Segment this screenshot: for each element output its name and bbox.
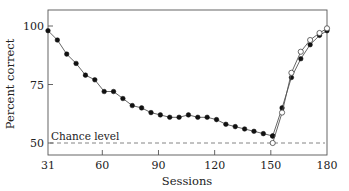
x-tick-label: 150 [260,159,281,172]
filled-data-point [252,129,257,134]
filled-data-point [55,38,60,43]
series-filled [46,28,275,138]
filled-data-point [83,73,88,78]
filled-data-point [74,61,79,66]
open-data-point [270,140,275,145]
filled-data-point [46,28,51,33]
x-tick-label: 60 [95,159,109,172]
chance-level-label: Chance level [51,130,120,142]
filled-data-point [167,115,172,120]
x-tick-label: 180 [317,159,338,172]
open-data-point [289,70,294,75]
series-open-recovery [270,26,330,146]
y-tick-label: 75 [30,79,44,92]
filled-data-point [158,113,163,118]
series-line-open-recovery [273,28,327,143]
series-group [46,26,330,146]
filled-data-point [298,56,303,61]
filled-data-point [233,124,238,129]
open-data-point [324,26,329,31]
filled-data-point [130,103,135,108]
open-data-point [298,49,303,54]
filled-data-point [205,115,210,120]
filled-data-point [195,115,200,120]
open-data-point [308,37,313,42]
open-data-point [279,110,284,115]
y-axis-title: Percent correct [3,38,17,129]
filled-data-point [102,89,107,94]
filled-data-point [139,106,144,111]
filled-data-point [214,117,219,122]
filled-data-point [224,122,229,127]
axes: Chance level 316090120150180 5075100 Ses… [3,10,338,188]
filled-data-point [261,131,266,136]
filled-data-point [93,78,98,83]
open-data-point [317,30,322,35]
filled-data-point [308,42,313,47]
filled-data-point [177,115,182,120]
y-tick-label: 100 [23,20,44,33]
filled-data-point [64,52,69,57]
x-ticks: 316090120150180 [41,150,338,172]
y-ticks: 5075100 [23,20,53,150]
y-tick-label: 50 [30,137,44,150]
x-tick-label: 31 [41,159,55,172]
chart: Chance level 316090120150180 5075100 Ses… [0,0,349,191]
filled-data-point [111,89,116,94]
x-tick-label: 120 [204,159,225,172]
x-tick-label: 90 [151,159,165,172]
filled-data-point [121,96,126,101]
series-line-filled [48,31,273,136]
x-axis-title: Sessions [162,174,212,188]
series-line-filled-recovery [273,31,327,136]
filled-data-point [242,127,247,132]
filled-data-point [149,110,154,115]
filled-data-point [186,113,191,118]
